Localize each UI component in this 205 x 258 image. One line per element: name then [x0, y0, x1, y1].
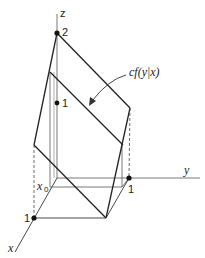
x-axis [15, 178, 57, 252]
tick-z-1: 1 [62, 97, 68, 109]
dashed-right [129, 108, 130, 178]
x0-subscript: 0 [44, 185, 49, 194]
left-edge [34, 33, 57, 145]
point-z-2 [54, 30, 59, 35]
tick-z-2: 2 [62, 26, 68, 38]
x-axis-label: x [7, 241, 14, 255]
tick-y-1: 1 [128, 183, 134, 195]
z-axis-label: z [60, 7, 66, 19]
tick-x-1: 1 [24, 212, 30, 224]
x0-label: x [36, 179, 43, 193]
point-x-1 [31, 215, 36, 220]
y-axis-label: y [183, 163, 190, 177]
right-edge [106, 108, 130, 218]
annotation-label: cf(y|x) [129, 65, 160, 79]
annotation-arrow [92, 75, 126, 101]
conditional-density-diagram: z 2 1 cf(y|x) y 1 x 0 1 x [0, 0, 205, 258]
cross-section-line [50, 72, 123, 145]
point-z-1 [55, 101, 60, 106]
base-right [106, 178, 129, 218]
point-y-1 [126, 175, 131, 180]
bottom-diagonal [34, 145, 106, 218]
arrowhead-icon [89, 97, 96, 106]
